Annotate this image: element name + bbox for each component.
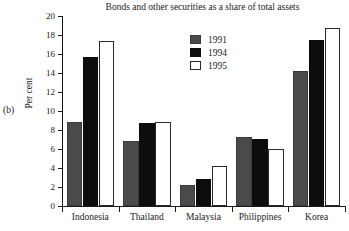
x-tick-mark xyxy=(345,207,346,212)
y-tick-label: 0 xyxy=(34,202,55,211)
y-tick-mark xyxy=(58,111,62,112)
y-tick-label: 2 xyxy=(34,183,55,192)
chart-title: Bonds and other securities as a share of… xyxy=(60,2,345,13)
x-axis-label: Thailand xyxy=(119,212,176,223)
bar xyxy=(293,71,309,206)
y-tick-mark xyxy=(58,187,62,188)
bar xyxy=(99,41,115,206)
legend-label: 1994 xyxy=(208,48,227,58)
y-tick-label: 18 xyxy=(34,31,55,40)
bar xyxy=(236,137,252,206)
legend-swatch-icon xyxy=(190,61,201,70)
legend-label: 1991 xyxy=(208,35,227,45)
y-tick-label: 10 xyxy=(34,107,55,116)
chart-figure: Bonds and other securities as a share of… xyxy=(0,0,349,231)
y-tick-label: 12 xyxy=(34,88,55,97)
bar xyxy=(196,179,212,206)
legend-item: 1994 xyxy=(190,46,227,59)
y-tick-label: 20 xyxy=(34,12,55,21)
bar xyxy=(123,141,139,206)
y-tick-mark xyxy=(58,149,62,150)
legend-swatch-icon xyxy=(190,48,201,57)
legend-swatch-icon xyxy=(190,35,201,44)
x-axis-label: Indonesia xyxy=(62,212,119,223)
y-tick-label: 6 xyxy=(34,145,55,154)
y-tick-mark xyxy=(58,168,62,169)
bar xyxy=(180,185,196,206)
y-tick-label: 4 xyxy=(34,164,55,173)
y-tick-mark xyxy=(58,92,62,93)
x-axis-label: Malaysia xyxy=(175,212,232,223)
bar xyxy=(83,57,99,206)
bar-group xyxy=(67,16,115,206)
bar-group xyxy=(236,16,284,206)
bar xyxy=(67,122,83,206)
y-tick-mark xyxy=(58,130,62,131)
bar xyxy=(252,139,268,206)
legend-item: 1995 xyxy=(190,59,227,72)
bar-group xyxy=(293,16,341,206)
legend-item: 1991 xyxy=(190,33,227,46)
y-tick-mark xyxy=(58,35,62,36)
y-tick-label: 14 xyxy=(34,69,55,78)
bar xyxy=(309,40,325,206)
bar xyxy=(325,28,341,206)
panel-label: (b) xyxy=(3,105,14,115)
y-tick-mark xyxy=(58,16,62,17)
bar-group xyxy=(123,16,171,206)
bar xyxy=(212,166,228,206)
x-axis-label: Philippines xyxy=(232,212,289,223)
legend: 199119941995 xyxy=(190,33,227,72)
legend-label: 1995 xyxy=(208,61,227,71)
x-axis-label: Korea xyxy=(288,212,345,223)
y-tick-label: 8 xyxy=(34,126,55,135)
y-axis-title: Per cent xyxy=(24,63,34,123)
y-tick-mark xyxy=(58,73,62,74)
bar xyxy=(155,122,171,206)
y-tick-mark xyxy=(58,54,62,55)
bar xyxy=(268,149,284,206)
bar xyxy=(139,123,155,206)
y-tick-label: 16 xyxy=(34,50,55,59)
